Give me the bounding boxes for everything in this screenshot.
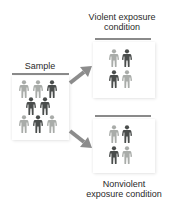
person-icon: [122, 125, 132, 143]
person-icon: [109, 49, 119, 67]
person-icon: [109, 125, 119, 143]
person-icon: [33, 115, 43, 133]
person-icon: [47, 115, 57, 133]
person-icon: [109, 70, 119, 88]
nonviolent-condition-group: [93, 119, 155, 173]
arrow-down-right-icon: [68, 128, 94, 150]
person-icon: [40, 97, 50, 115]
sample-label: Sample: [12, 61, 68, 71]
nonviolent-condition-label: Nonviolent exposure condition: [84, 179, 164, 199]
arrow-up-right-icon: [68, 64, 94, 86]
person-icon: [33, 80, 43, 98]
nonviolent-condition-divider: [95, 115, 151, 117]
person-icon: [122, 70, 132, 88]
person-icon: [109, 146, 119, 164]
sample-group: [12, 76, 69, 140]
violent-condition-group: [93, 42, 155, 98]
violent-condition-label: Violent exposure condition: [84, 12, 160, 32]
person-icon: [122, 49, 132, 67]
person-icon: [47, 80, 57, 98]
violent-condition-divider: [95, 38, 151, 40]
sample-divider: [12, 73, 69, 75]
person-icon: [122, 146, 132, 164]
person-icon: [26, 97, 36, 115]
person-icon: [19, 115, 29, 133]
person-icon: [19, 80, 29, 98]
